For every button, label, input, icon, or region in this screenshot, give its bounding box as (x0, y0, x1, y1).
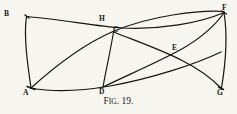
edge-c-d (103, 32, 114, 87)
point-label-e: E (172, 44, 177, 52)
point-label-c: C (113, 26, 118, 34)
edges-group (25, 11, 225, 91)
edge-c-e-g (114, 32, 222, 88)
point-label-f: F (222, 4, 227, 12)
point-label-b: B (4, 10, 9, 18)
vertex-marks-group (25, 11, 227, 90)
edge-d-e-f (103, 13, 224, 88)
edge-a-c-f (31, 11, 224, 88)
figure-container: BAHCDEFG FIG. 19. (0, 0, 237, 114)
edge-f-g (222, 13, 226, 89)
edge-b-h-f (27, 13, 225, 29)
edge-a-d-g (31, 52, 221, 91)
caption-text: FIG. 19. (104, 96, 134, 106)
edge-b-a (25, 17, 31, 89)
point-label-h: H (99, 15, 105, 23)
point-label-d: D (99, 88, 104, 96)
figure-caption: FIG. 19. (0, 96, 237, 106)
